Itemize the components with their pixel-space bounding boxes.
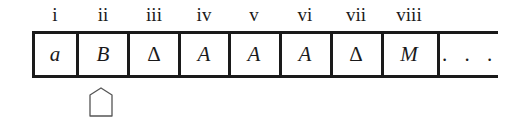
cell-label-4: iv [179, 4, 229, 26]
tape-cell-7-symbol: Δ [331, 42, 381, 67]
tape-head-pointer-icon [88, 86, 114, 118]
cell-label-7: vii [331, 4, 381, 26]
tape-top-edge [32, 31, 498, 34]
cell-label-6: vi [280, 4, 330, 26]
cell-label-3: iii [129, 4, 179, 26]
cell-label-5: v [229, 4, 279, 26]
tape-cell-6-symbol: A [280, 42, 330, 67]
cell-label-2: ii [78, 4, 128, 26]
tape-continuation: . . . [440, 42, 500, 67]
tape-cell-1-symbol: a [30, 42, 80, 67]
tape-cell-3-symbol: Δ [129, 42, 179, 67]
tape-cell-4-symbol: A [179, 42, 229, 67]
cell-label-8: viii [384, 4, 434, 26]
tape-cell-2-symbol: B [78, 42, 128, 67]
cell-label-1: i [30, 4, 80, 26]
tape-cell-8-symbol: M [384, 42, 434, 67]
tape-bottom-edge [32, 75, 498, 78]
tape-cell-5-symbol: A [229, 42, 279, 67]
